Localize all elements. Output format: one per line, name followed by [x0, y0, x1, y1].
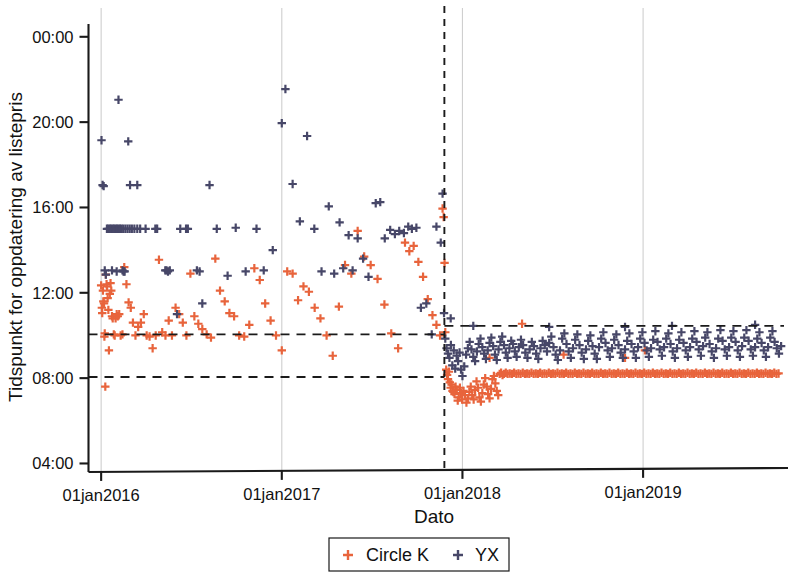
legend-label-yx: YX: [475, 545, 499, 565]
y-tick-label: 08:00: [32, 369, 73, 387]
x-tick-label: 01jan2018: [424, 484, 501, 502]
x-tick-label: 01jan2019: [605, 483, 682, 501]
scatter-plot: 04:0008:0012:0016:0020:0000:00 01jan2016…: [0, 0, 788, 574]
x-axis-title: Dato: [414, 506, 454, 527]
y-tick-label: 04:00: [32, 454, 73, 472]
x-tick-label: 01jan2017: [243, 485, 320, 503]
legend-label-circle-k: Circle K: [366, 545, 429, 565]
y-tick-label: 12:00: [32, 284, 73, 302]
y-tick-label: 00:00: [32, 28, 73, 46]
chart-figure: 04:0008:0012:0016:0020:0000:00 01jan2016…: [0, 0, 788, 574]
x-tick-label: 01jan2016: [63, 486, 140, 504]
chart-legend: Circle K YX: [329, 538, 509, 571]
y-axis-title: Tidspunkt for oppdatering av listepris: [5, 92, 26, 402]
y-tick-label: 16:00: [32, 198, 73, 216]
y-tick-label: 20:00: [32, 113, 73, 131]
